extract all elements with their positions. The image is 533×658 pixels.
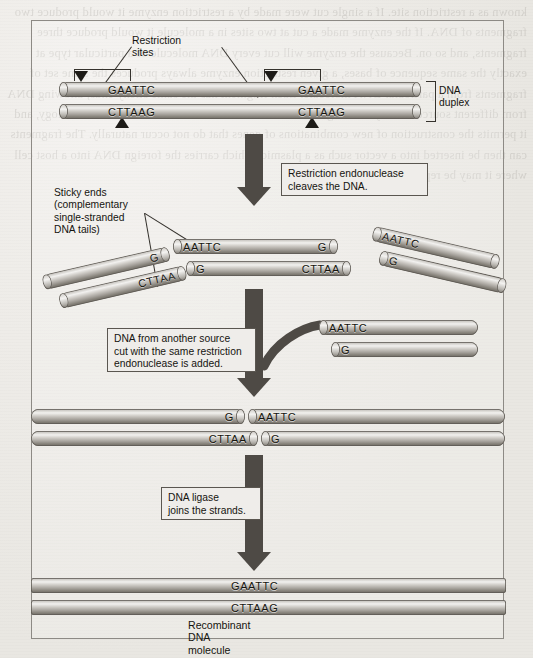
incoming-dna-top-strand: AATTC: [320, 320, 478, 335]
duplex-bottom-site-2: CTTAAG: [298, 106, 345, 118]
process-arrow-1-head: [237, 187, 271, 206]
cut-marker-top-right: [264, 71, 278, 82]
duplex-top-strand: GAATTC GAATTC: [60, 82, 420, 97]
annealed-top-right-seq: AATTC: [258, 411, 296, 423]
left-fragment-bottom-seq: CTTAA: [137, 269, 177, 289]
annealed-bottom-left-seq: CTTAA: [209, 433, 247, 445]
recombinant-bottom-strand: CTTAAG: [31, 600, 506, 615]
duplex-bottom-site-1: CTTAAG: [108, 106, 155, 118]
incoming-bottom-seq: G: [341, 344, 350, 356]
step-note-add-source: DNA from another source cut with the sam…: [107, 328, 256, 372]
center-fragment-bottom-strand: G CTTAA: [187, 261, 350, 276]
left-fragment-top-seq: G: [148, 250, 160, 264]
duplex-top-site-1: GAATTC: [108, 84, 155, 96]
right-fragment-bottom-seq: G: [388, 254, 400, 268]
center-bottom-sticky: CTTAA: [302, 263, 340, 275]
recombinant-caption: Recombinant DNA molecule: [188, 619, 250, 656]
step-note-cleave: Restriction endonuclease cleaves the DNA…: [281, 163, 428, 196]
incoming-dna-bottom-strand: G: [332, 342, 478, 357]
center-top-end: G: [318, 241, 327, 253]
right-fragment-top-seq: AATTC: [381, 230, 421, 250]
duplex-bottom-strand: CTTAAG CTTAAG: [60, 104, 420, 119]
duplex-brace: [426, 81, 436, 122]
recombinant-bottom-seq: CTTAAG: [231, 602, 278, 614]
process-arrow-1: [245, 134, 263, 189]
duplex-top-site-2: GAATTC: [298, 84, 345, 96]
recombinant-top-strand: GAATTC: [31, 578, 506, 593]
process-arrow-3-head: [237, 552, 271, 571]
restriction-sites-label: Restriction sites: [132, 35, 181, 60]
annealed-bottom-right-strand: G: [262, 431, 505, 446]
dna-duplex-label: DNA duplex: [439, 85, 469, 110]
right-fragment: AATTC G: [361, 202, 515, 311]
center-fragment-top-strand: AATTC G: [174, 239, 337, 254]
annealed-top-left-strand: G: [31, 409, 244, 424]
center-bottom-end: G: [196, 263, 205, 275]
annealed-bottom-left-strand: CTTAA: [31, 431, 257, 446]
annealed-top-right-strand: AATTC: [249, 409, 505, 424]
figure-frame: Restriction sites GAATTC GAATTC CTTAAG C…: [31, 20, 504, 639]
annealed-top-left-seq: G: [225, 411, 234, 423]
left-fragment: G CTTAA: [33, 221, 187, 330]
cut-marker-top-left: [74, 71, 88, 82]
annealed-bottom-right-seq: G: [271, 433, 280, 445]
process-arrow-2-head: [237, 378, 271, 397]
center-top-sticky: AATTC: [183, 241, 221, 253]
step-note-ligase: DNA ligase joins the strands.: [161, 487, 261, 520]
sticky-ends-label: Sticky ends (complementary single-strand…: [54, 187, 128, 237]
incoming-top-seq: AATTC: [329, 322, 367, 334]
recombinant-top-seq: GAATTC: [231, 580, 278, 592]
